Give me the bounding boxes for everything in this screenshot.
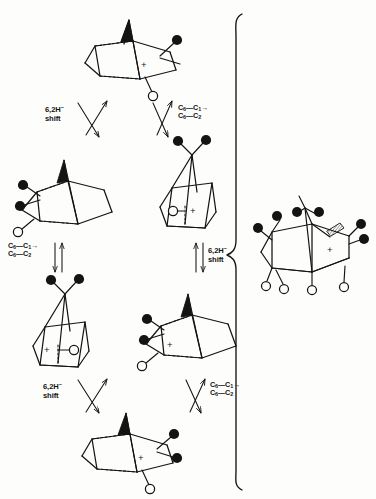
structure-top	[85, 20, 182, 101]
charge-plus-lower-left: +	[44, 344, 50, 355]
equilibrium-arrow-left	[55, 243, 62, 272]
structure-lower-middle	[137, 294, 236, 371]
structure-middle-left	[13, 160, 112, 237]
structure-lower-left	[33, 274, 89, 367]
structure-bottom	[82, 413, 182, 494]
label-hydride-shift-lower-left: 6,2H− shift	[43, 381, 62, 400]
label-carbon-shift-lower-right: C6—C1→ C6—C2	[210, 381, 240, 397]
equilibrium-arrow-upper-left	[78, 101, 107, 137]
charge-plus-middle-right: +	[190, 205, 196, 216]
grouping-brace	[227, 14, 242, 490]
structure-middle-right	[160, 135, 216, 228]
label-hydride-shift-right: 6,2H− shift	[208, 245, 227, 264]
label-carbon-shift-upper-right: C6—C1→ C6—C2	[178, 104, 208, 120]
label-hydride-shift-upper-left: 6,2H− shift	[45, 104, 64, 123]
label-carbon-shift-left: C6—C1→ C6—C2	[8, 242, 38, 258]
charge-plus-lower-middle: +	[167, 339, 173, 350]
charge-plus-averaged: +	[327, 244, 333, 255]
equilibrium-arrow-lower-right	[186, 379, 205, 413]
equilibrium-arrow-upper-right	[153, 101, 172, 137]
equilibrium-arrow-lower-left	[78, 379, 107, 413]
equilibrium-arrow-right	[196, 243, 203, 272]
structure-averaged	[253, 196, 369, 295]
reaction-scheme-canvas: +	[0, 0, 376, 499]
charge-plus-top: +	[141, 59, 147, 70]
charge-plus-bottom: +	[138, 452, 144, 463]
